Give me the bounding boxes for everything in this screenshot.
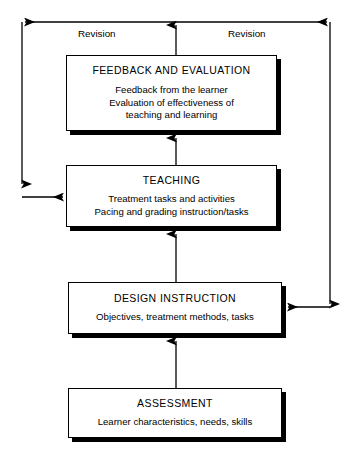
- node-design-title: DESIGN INSTRUCTION: [114, 292, 236, 304]
- node-feedback-lines: Feedback from the learner Evaluation of …: [109, 84, 234, 122]
- node-design-instruction: DESIGN INSTRUCTION Objectives, treatment…: [68, 282, 282, 334]
- node-teaching-line-1: Treatment tasks and activities: [94, 193, 248, 206]
- node-feedback-line-2: Evaluation of effectiveness of: [109, 97, 234, 110]
- node-design-line-1: Objectives, treatment methods, tasks: [96, 311, 254, 324]
- node-feedback-title: FEEDBACK AND EVALUATION: [92, 64, 250, 76]
- node-assessment: ASSESSMENT Learner characteristics, need…: [68, 388, 282, 438]
- edge-label-revision-left: Revision: [78, 28, 116, 39]
- node-assessment-lines: Learner characteristics, needs, skills: [98, 416, 253, 429]
- node-feedback-line-1: Feedback from the learner: [109, 84, 234, 97]
- node-feedback-line-3: teaching and learning: [109, 109, 234, 122]
- node-teaching-title: TEACHING: [143, 174, 200, 186]
- node-feedback-and-evaluation: FEEDBACK AND EVALUATION Feedback from th…: [66, 55, 277, 131]
- node-assessment-title: ASSESSMENT: [137, 397, 213, 409]
- flowchart-diagram: Revision Revision FEEDBACK AND EVALUATIO…: [0, 0, 352, 462]
- node-assessment-line-1: Learner characteristics, needs, skills: [98, 416, 253, 429]
- node-design-lines: Objectives, treatment methods, tasks: [96, 311, 254, 324]
- node-teaching: TEACHING Treatment tasks and activities …: [66, 165, 277, 227]
- node-teaching-line-2: Pacing and grading instruction/tasks: [94, 206, 248, 219]
- edge-label-revision-right: Revision: [228, 28, 266, 39]
- node-teaching-lines: Treatment tasks and activities Pacing an…: [94, 193, 248, 218]
